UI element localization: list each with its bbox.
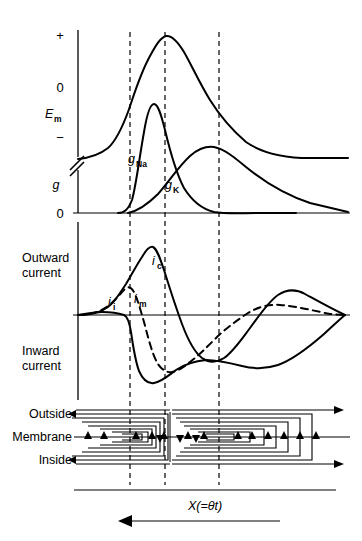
- gna-label: g Na: [128, 152, 147, 169]
- ic-curve: [78, 247, 345, 362]
- right-outside-arrow: [334, 406, 344, 414]
- ytick-g: g: [53, 178, 60, 192]
- inside-label: Inside: [39, 453, 72, 467]
- outside-label: Outside: [29, 407, 72, 421]
- gk-curve: [128, 147, 348, 213]
- ic-label-subscript: c: [157, 261, 162, 271]
- right-inside-arrow: [334, 460, 344, 468]
- inward-current-label: Inward current: [22, 344, 61, 373]
- middle-panel: Outward current Inward current i c i i i…: [22, 222, 350, 400]
- gk-label-subscript: K: [173, 185, 180, 195]
- x-axis-label: X(=θt): [187, 499, 222, 513]
- inward-current-line1: Inward: [22, 344, 60, 358]
- gk-label: g K: [165, 178, 180, 195]
- figure-root: + 0 E m − g 0 g Na g K: [0, 0, 362, 541]
- bottom-panel: Outside Membrane Inside: [12, 406, 350, 527]
- ytick-plus: +: [56, 28, 64, 43]
- im-label: i m: [134, 292, 147, 309]
- ytick-em-letter: E: [45, 107, 54, 121]
- ytick-em: E m: [45, 107, 62, 124]
- gna-label-subscript: Na: [136, 159, 147, 169]
- ytick-minus: −: [56, 130, 64, 145]
- outward-current-line1: Outward: [22, 251, 69, 265]
- ic-label-letter: i: [152, 254, 156, 268]
- ytick-zero: 0: [56, 80, 63, 95]
- ic-label: i c: [152, 254, 162, 271]
- gk-label-letter: g: [165, 178, 172, 192]
- right-membrane-arrowheads: [184, 431, 320, 439]
- top-panel: + 0 E m − g 0 g Na g K: [45, 28, 350, 221]
- outward-current-line2: current: [22, 266, 61, 280]
- em-curve: [78, 36, 348, 159]
- ytick-em-subscript: m: [54, 114, 62, 124]
- outward-current-label: Outward current: [22, 251, 69, 280]
- scientific-figure: + 0 E m − g 0 g Na g K: [0, 0, 362, 541]
- ii-curve: [78, 312, 345, 383]
- im-label-subscript: m: [139, 299, 147, 309]
- membrane-label: Membrane: [12, 430, 72, 444]
- ii-label-subscript: i: [113, 302, 115, 312]
- marker-lines: [130, 32, 219, 485]
- propagation-direction-arrow: [118, 515, 280, 527]
- inward-current-line2: current: [22, 359, 61, 373]
- ytick-g-zero: 0: [56, 206, 63, 221]
- gna-label-letter: g: [128, 152, 135, 166]
